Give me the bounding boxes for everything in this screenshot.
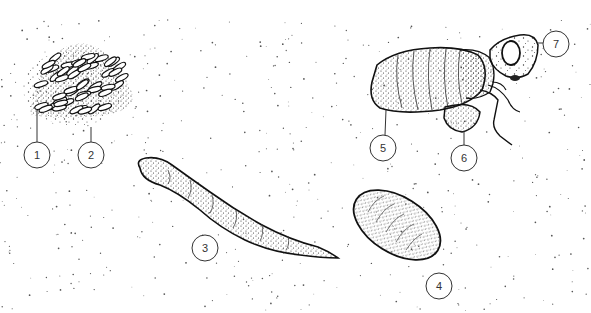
pupa-figure [341, 176, 452, 274]
label-marker-3: 3 [192, 235, 218, 261]
label-number: 6 [461, 152, 467, 164]
egg-cluster-figure [23, 43, 133, 126]
label-number: 2 [88, 149, 94, 161]
label-marker-4: 4 [426, 273, 452, 299]
label-marker-5: 5 [370, 110, 396, 161]
label-marker-2: 2 [78, 127, 104, 168]
larva-figure [138, 158, 338, 258]
label-number: 4 [436, 280, 442, 292]
label-number: 3 [202, 242, 208, 254]
label-marker-7: 7 [537, 31, 569, 57]
label-marker-6: 6 [451, 131, 477, 171]
adult-insect-figure [371, 35, 538, 145]
leader-line [385, 110, 386, 135]
label-number: 7 [553, 38, 559, 50]
life-cycle-diagram: 1234567 [0, 0, 591, 313]
label-number: 1 [34, 149, 40, 161]
label-number: 5 [380, 142, 386, 154]
